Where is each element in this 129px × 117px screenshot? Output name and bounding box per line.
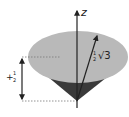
z-axis-label: z: [81, 7, 87, 18]
vector-root: √3: [98, 51, 111, 61]
projection-fraction-den: 2: [13, 78, 16, 83]
vector-fraction-den: 2: [93, 57, 96, 62]
projection-fraction-num: 1: [13, 71, 16, 76]
